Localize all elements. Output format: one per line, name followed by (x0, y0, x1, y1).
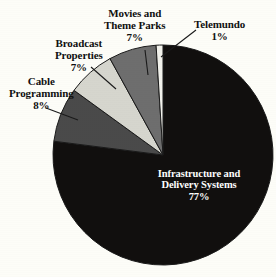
slice-label-movies-line2: Theme Parks (104, 20, 166, 32)
slice-percent-movies: 7% (104, 32, 166, 44)
slice-percent-telemundo: 1% (194, 31, 245, 43)
slice-label-infrastructure-line2: Delivery Systems (145, 179, 253, 190)
pie-chart: Movies and Theme Parks 7% Telemundo 1% B… (0, 0, 276, 277)
slice-percent-infrastructure: 77% (145, 191, 253, 202)
slice-label-cable-line2: Programming (9, 88, 74, 100)
slice-label-infrastructure: Infrastructure and Delivery Systems 77% (145, 168, 253, 202)
slice-percent-broadcast: 7% (55, 62, 103, 74)
slice-label-telemundo: Telemundo 1% (194, 19, 245, 43)
slice-label-broadcast: Broadcast Properties 7% (55, 38, 103, 74)
slice-label-broadcast-line2: Properties (55, 50, 103, 62)
slice-label-infrastructure-line1: Infrastructure and (145, 168, 253, 179)
slice-label-cable: Cable Programming 8% (9, 76, 74, 112)
slice-label-movies: Movies and Theme Parks 7% (104, 8, 166, 44)
slice-percent-cable: 8% (9, 100, 74, 112)
